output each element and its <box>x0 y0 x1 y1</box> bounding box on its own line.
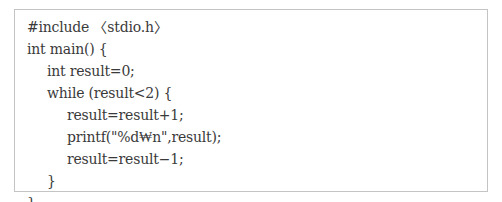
code-line-include: #include 〈stdio.h〉 <box>27 16 168 38</box>
code-line-close-main: } <box>27 192 36 202</box>
code-line-close-while: } <box>47 170 56 192</box>
code-line-declare: int result=0; <box>47 60 135 82</box>
code-block: #include 〈stdio.h〉 int main() { int resu… <box>14 9 488 192</box>
code-line-decrement: result=result−1; <box>67 148 183 170</box>
code-line-while: while (result<2) { <box>47 82 172 104</box>
code-line-increment: result=result+1; <box>67 104 183 126</box>
code-line-printf: printf("%d₩n",result); <box>67 126 221 148</box>
code-line-main: int main() { <box>27 38 108 60</box>
